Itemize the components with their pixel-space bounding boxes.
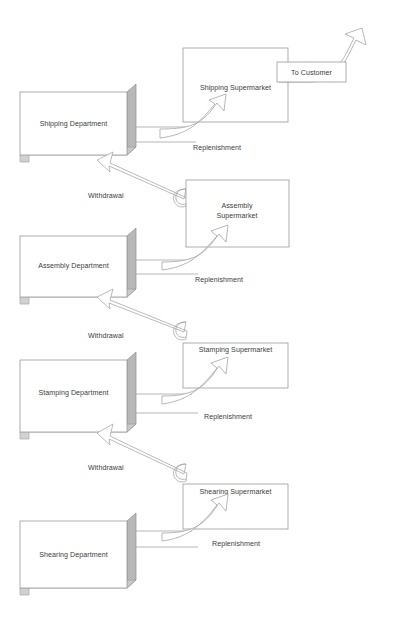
stamping-withdrawal-arrow: [97, 424, 187, 482]
shearing-dept-label: Shearing Department: [39, 551, 107, 559]
supermarket-assembly: Assembly Supermarket: [186, 180, 289, 247]
withdrawal-flow-shipping: Withdrawal: [88, 152, 187, 207]
assembly-dept-label: Assembly Department: [38, 262, 109, 270]
assembly-withdrawal-label: Withdrawal: [88, 332, 124, 340]
assembly-supermarket-label-line2: Supermarket: [216, 212, 257, 220]
department-stamping: Stamping Department: [20, 352, 136, 439]
assembly-dept-side-face: [127, 228, 136, 297]
department-shearing: Shearing Department: [20, 513, 136, 595]
shearing-dept-side-face: [127, 513, 136, 588]
stamping-dept-side-face: [127, 352, 136, 432]
assembly-replenishment-label: Replenishment: [195, 276, 243, 284]
pull-system-diagram: Shipping Supermarket To Customer Shippin…: [0, 0, 409, 627]
withdrawal-flow-stamping: Withdrawal: [88, 424, 187, 482]
to-customer-flow: To Customer: [277, 28, 366, 82]
stamping-replenishment-label: Replenishment: [204, 413, 252, 421]
department-assembly: Assembly Department: [20, 228, 136, 304]
supermarket-stamping: Stamping Supermarket: [183, 343, 288, 388]
supermarket-shearing: Shearing Supermarket: [183, 484, 288, 529]
supermarket-shipping: Shipping Supermarket: [183, 48, 288, 122]
diagram-canvas: Shipping Supermarket To Customer Shippin…: [0, 0, 409, 627]
stamping-dept-label: Stamping Department: [39, 389, 109, 397]
shipping-withdrawal-label: Withdrawal: [88, 192, 124, 200]
shipping-dept-label: Shipping Department: [40, 120, 108, 128]
shipping-dept-side-face: [127, 84, 136, 155]
stamping-withdrawal-label: Withdrawal: [88, 464, 124, 472]
withdrawal-flow-assembly: Withdrawal: [88, 289, 187, 340]
shearing-replenishment-label: Replenishment: [212, 540, 260, 548]
shearing-supermarket-label: Shearing Supermarket: [200, 488, 272, 496]
assembly-supermarket-label-line1: Assembly: [221, 202, 253, 210]
stamping-supermarket-label: Stamping Supermarket: [199, 346, 273, 354]
shipping-supermarket-label: Shipping Supermarket: [200, 84, 271, 92]
to-customer-label: To Customer: [291, 69, 332, 77]
department-shipping: Shipping Department: [20, 84, 136, 162]
shipping-replenishment-label: Replenishment: [193, 144, 241, 152]
